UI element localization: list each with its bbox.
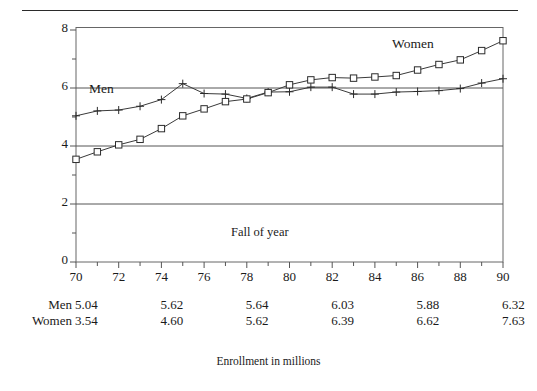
x-tick-label-74: 74 xyxy=(145,269,177,285)
table-cell-men-82: 6.03 xyxy=(331,297,354,313)
marker-plus-men-90 xyxy=(499,75,507,83)
x-tick-label-80: 80 xyxy=(274,269,306,285)
marker-plus-men-71 xyxy=(93,107,101,115)
y-tick-label-2: 2 xyxy=(46,194,68,210)
y-tick-label-0: 0 xyxy=(46,252,68,268)
data-value-table: Men5.045.625.646.035.886.32 Women3.544.6… xyxy=(0,297,537,329)
marker-square-women-72 xyxy=(116,142,122,148)
table-cell-men-78: 5.64 xyxy=(246,297,269,313)
marker-plus-men-81 xyxy=(307,83,315,91)
marker-plus-men-84 xyxy=(371,90,379,98)
marker-square-women-90 xyxy=(500,38,506,44)
table-cell-women-70: 3.54 xyxy=(75,313,98,329)
y-tick-label-4: 4 xyxy=(46,136,68,152)
table-cell-women-78: 5.62 xyxy=(246,313,269,329)
series-annotation-men: Men xyxy=(89,81,114,97)
x-tick-label-70: 70 xyxy=(60,269,92,285)
marker-square-women-85 xyxy=(393,72,399,78)
marker-square-women-86 xyxy=(414,67,420,73)
marker-square-women-77 xyxy=(222,98,228,104)
x-axis-inner-note: Fall of year xyxy=(231,225,289,240)
marker-square-women-71 xyxy=(94,149,100,155)
x-tick-label-78: 78 xyxy=(231,269,263,285)
marker-square-women-81 xyxy=(308,77,314,83)
x-tick-label-84: 84 xyxy=(359,269,391,285)
table-cell-men-90: 6.32 xyxy=(502,297,525,313)
marker-plus-men-76 xyxy=(200,90,208,98)
marker-square-women-89 xyxy=(478,47,484,53)
table-cell-men-74: 5.62 xyxy=(160,297,183,313)
table-cell-men-70: 5.04 xyxy=(75,297,98,313)
table-row: Men5.045.625.646.035.886.32 xyxy=(0,297,537,313)
table-cell-women-90: 7.63 xyxy=(502,313,525,329)
marker-square-women-78 xyxy=(244,96,250,102)
marker-square-women-73 xyxy=(137,136,143,142)
series-annotation-women: Women xyxy=(392,36,434,52)
marker-plus-men-73 xyxy=(136,102,144,110)
table-cell-women-82: 6.39 xyxy=(331,313,354,329)
table-row-label-men: Men xyxy=(20,297,72,313)
marker-plus-men-77 xyxy=(221,90,229,98)
figure-container: 8 6 4 2 0 7072747678808284868890 Men Wom… xyxy=(0,0,537,391)
table-cell-women-74: 4.60 xyxy=(160,313,183,329)
marker-square-women-80 xyxy=(286,82,292,88)
marker-plus-men-85 xyxy=(392,88,400,96)
marker-plus-men-70 xyxy=(72,112,80,120)
marker-square-women-76 xyxy=(201,106,207,112)
marker-square-women-82 xyxy=(329,74,335,80)
y-tick-label-8: 8 xyxy=(46,20,68,36)
marker-plus-men-86 xyxy=(414,87,422,95)
y-axis-ticks xyxy=(70,30,76,262)
marker-square-women-79 xyxy=(265,89,271,95)
marker-plus-men-82 xyxy=(328,83,336,91)
chart-plot-area xyxy=(0,0,537,391)
marker-plus-men-89 xyxy=(478,79,486,87)
marker-square-women-84 xyxy=(372,74,378,80)
marker-plus-men-83 xyxy=(350,90,358,98)
marker-plus-men-74 xyxy=(157,96,165,104)
marker-plus-men-80 xyxy=(286,88,294,96)
figure-caption: Enrollment in millions xyxy=(0,355,537,367)
table-cell-women-86: 6.62 xyxy=(417,313,440,329)
table-row: Women3.544.605.626.396.627.63 xyxy=(0,313,537,329)
series-markers xyxy=(72,38,507,163)
marker-square-women-87 xyxy=(436,61,442,67)
marker-square-women-88 xyxy=(457,57,463,63)
table-row-label-women: Women xyxy=(20,313,72,329)
x-tick-label-88: 88 xyxy=(444,269,476,285)
marker-plus-men-72 xyxy=(115,106,123,114)
marker-square-women-70 xyxy=(73,156,79,162)
table-cell-men-86: 5.88 xyxy=(417,297,440,313)
y-tick-label-6: 6 xyxy=(46,78,68,94)
marker-plus-men-75 xyxy=(179,80,187,88)
x-tick-label-86: 86 xyxy=(402,269,434,285)
x-tick-label-72: 72 xyxy=(103,269,135,285)
marker-square-women-74 xyxy=(158,125,164,131)
x-tick-label-82: 82 xyxy=(316,269,348,285)
x-axis-ticks xyxy=(76,262,503,268)
marker-square-women-75 xyxy=(180,113,186,119)
x-tick-label-90: 90 xyxy=(487,269,519,285)
x-tick-label-76: 76 xyxy=(188,269,220,285)
marker-square-women-83 xyxy=(350,75,356,81)
marker-plus-men-88 xyxy=(456,85,464,93)
